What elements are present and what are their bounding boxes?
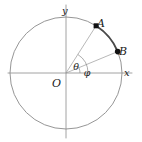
- radius-line-oa: [66, 26, 96, 73]
- geometry-figure: A B x y O θ φ: [0, 0, 142, 142]
- point-label-a: A: [96, 17, 105, 30]
- angle-label-theta: θ: [73, 61, 79, 72]
- x-axis-label: x: [124, 67, 130, 78]
- figure-canvas: A B x y O θ φ: [0, 0, 142, 142]
- point-label-b: B: [118, 45, 127, 58]
- angle-label-phi: φ: [84, 67, 91, 78]
- origin-label: O: [52, 77, 61, 90]
- angle-arc-phi: [79, 68, 80, 73]
- y-axis-label: y: [61, 5, 68, 16]
